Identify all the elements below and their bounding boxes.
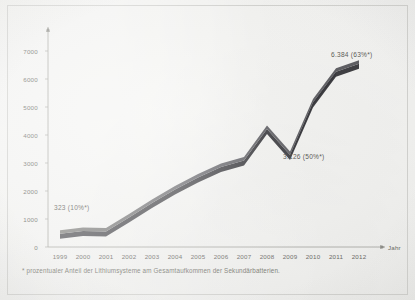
y-tick-label-3000: 3000 (8, 160, 38, 167)
x-tick-label-2001: 2001 (99, 253, 114, 260)
y-tick-label-2000: 2000 (8, 188, 38, 195)
x-tick-label-2005: 2005 (191, 253, 206, 260)
footnote: * prozentualer Anteil der Lithiumsysteme… (22, 267, 280, 274)
data-label-1999: 323 (10%*) (54, 204, 90, 211)
y-tick-label-7000: 7000 (8, 48, 38, 55)
x-tick-label-2002: 2002 (122, 253, 137, 260)
y-tick-label-0: 0 (8, 244, 38, 251)
x-tick-label-2000: 2000 (76, 253, 91, 260)
x-tick-label-2004: 2004 (168, 253, 183, 260)
x-tick-label-2006: 2006 (214, 253, 229, 260)
y-tick-marks (45, 51, 48, 247)
x-tick-label-2012: 2012 (352, 253, 367, 260)
series-band-face (60, 64, 359, 239)
data-label-2009: 3.126 (50%*) (283, 153, 325, 160)
y-tick-label-5000: 5000 (8, 104, 38, 111)
series-band-top (60, 60, 359, 234)
data-label-2012: 6.384 (63%*) (331, 51, 373, 58)
x-tick-label-2011: 2011 (329, 253, 343, 260)
plot-area: 0 1000 2000 3000 4000 5000 6000 7000 199… (0, 0, 415, 300)
x-tick-label-2007: 2007 (237, 253, 252, 260)
x-tick-label-2003: 2003 (145, 253, 160, 260)
x-tick-label-2008: 2008 (260, 253, 275, 260)
y-tick-label-4000: 4000 (8, 132, 38, 139)
x-tick-label-1999: 1999 (53, 253, 68, 260)
axis-lines (46, 27, 385, 249)
x-axis-title: Jahr (388, 244, 401, 251)
chart-figure: 0 1000 2000 3000 4000 5000 6000 7000 199… (0, 0, 415, 300)
y-tick-label-1000: 1000 (8, 216, 38, 223)
x-tick-label-2010: 2010 (306, 253, 321, 260)
x-tick-label-2009: 2009 (283, 253, 298, 260)
y-tick-label-6000: 6000 (8, 76, 38, 83)
